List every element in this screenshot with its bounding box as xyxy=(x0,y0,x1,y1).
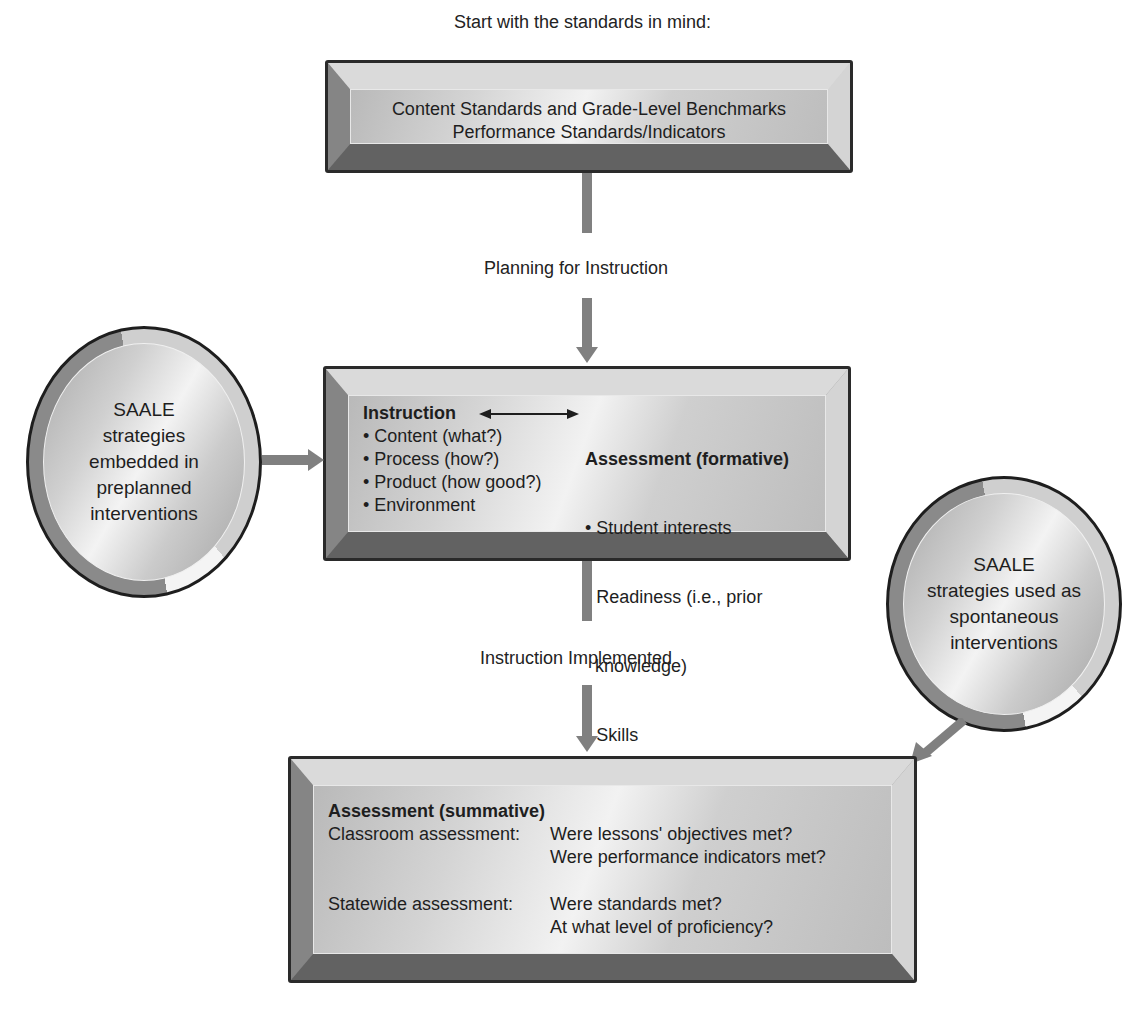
summative-assessment-box: Assessment (summative) Classroom assessm… xyxy=(288,756,917,983)
instruction-item: • Environment xyxy=(363,494,541,517)
left-circle-line: embedded in xyxy=(89,449,199,475)
statewide-question: At what level of proficiency? xyxy=(550,916,773,939)
planning-label: Planning for Instruction xyxy=(484,258,668,279)
connector-line-1b xyxy=(582,298,592,348)
top-caption: Start with the standards in mind: xyxy=(454,12,711,33)
statewide-question: Were standards met? xyxy=(550,893,773,916)
standards-box: Content Standards and Grade-Level Benchm… xyxy=(325,60,853,173)
instruction-assessment-box: Instruction • Content (what?) • Process … xyxy=(323,366,851,561)
instruction-assessment-face: Instruction • Content (what?) • Process … xyxy=(348,395,826,532)
statewide-assessment-label: Statewide assessment: xyxy=(328,893,513,916)
left-circle-line: interventions xyxy=(89,501,199,527)
summative-assessment-face: Assessment (summative) Classroom assessm… xyxy=(313,785,892,954)
assessment-item: • Readiness (i.e., prior xyxy=(585,586,789,609)
standards-box-face: Content Standards and Grade-Level Benchm… xyxy=(350,89,828,144)
right-circle-line: strategies used as xyxy=(927,578,1081,604)
left-circle-line: SAALE xyxy=(89,397,199,423)
preplanned-interventions-circle: SAALE strategies embedded in preplanned … xyxy=(26,326,262,598)
connector-line-2a xyxy=(582,561,592,621)
double-arrow-icon xyxy=(479,406,579,422)
classroom-question: Were lessons' objectives met? xyxy=(550,823,826,846)
implemented-label: Instruction Implemented xyxy=(480,648,672,669)
instruction-item: • Process (how?) xyxy=(363,448,541,471)
right-circle-line: spontaneous xyxy=(927,604,1081,630)
assessment-item: • Skills xyxy=(585,724,789,747)
right-circle-line: interventions xyxy=(927,630,1081,656)
arrow-down-icon xyxy=(576,347,598,363)
diagonal-arrow-icon xyxy=(910,718,970,764)
instruction-item: • Product (how good?) xyxy=(363,471,541,494)
left-circle-connector xyxy=(262,455,310,465)
assessment-item: • Student interests xyxy=(585,517,789,540)
connector-line-1a xyxy=(582,173,592,233)
right-circle-line: SAALE xyxy=(927,552,1081,578)
instruction-item: • Content (what?) xyxy=(363,425,541,448)
standards-line-2: Performance Standards/Indicators xyxy=(351,121,827,144)
connector-line-2b xyxy=(582,685,592,737)
spontaneous-interventions-circle: SAALE strategies used as spontaneous int… xyxy=(886,476,1122,732)
classroom-question: Were performance indicators met? xyxy=(550,846,826,869)
left-circle-line: strategies xyxy=(89,423,199,449)
standards-line-1: Content Standards and Grade-Level Benchm… xyxy=(351,98,827,121)
classroom-assessment-label: Classroom assessment: xyxy=(328,823,520,846)
arrow-right-icon xyxy=(308,449,324,471)
summative-heading: Assessment (summative) xyxy=(328,800,545,823)
arrow-down-icon xyxy=(576,736,598,752)
assessment-formative-heading: Assessment (formative) xyxy=(585,448,789,471)
left-circle-line: preplanned xyxy=(89,475,199,501)
